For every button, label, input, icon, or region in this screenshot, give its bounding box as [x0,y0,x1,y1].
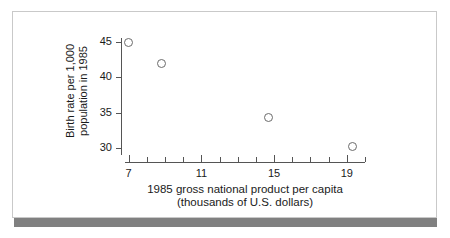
data-point [264,113,273,122]
x-axis-tick-minor [292,157,293,162]
data-point [124,38,133,47]
x-axis-title-line-2: (thousands of U.S. dollars) [121,196,369,209]
y-axis-tick-label: 35 [92,107,112,118]
x-axis-tick-major [347,155,348,162]
figure-frame: Birth rate per 1,000 population in 1985 … [12,11,437,218]
y-axis-title: Birth rate per 1,000 population in 1985 [57,29,97,153]
y-axis-title-text: Birth rate per 1,000 population in 1985 [64,44,90,138]
y-axis-title-line-2: population in 1985 [77,44,90,138]
x-axis-tick-minor [329,157,330,162]
data-point [348,142,357,151]
y-axis-tick-label: 40 [92,71,112,82]
bottom-accent-bar [14,218,437,227]
y-axis-title-line-1: Birth rate per 1,000 [64,44,77,138]
x-axis-tick-major [201,155,202,162]
x-axis-tick-label: 15 [262,167,286,179]
y-axis-tick [116,148,121,149]
y-axis-line [121,38,122,155]
x-axis-line [125,162,365,163]
x-axis-tick-minor [165,157,166,162]
x-axis-tick-major [274,155,275,162]
x-axis-tick-minor [238,157,239,162]
y-axis-tick-label: 45 [92,36,112,47]
y-axis-tick [116,77,121,78]
x-axis-tick-minor [220,157,221,162]
x-axis-tick-minor [147,157,148,162]
x-axis-tick-minor [365,157,366,162]
x-axis-tick-label: 19 [335,167,359,179]
data-point [157,59,166,68]
x-axis-tick-label: 7 [117,167,141,179]
x-axis-tick-major [129,155,130,162]
y-axis-tick-label: 30 [92,142,112,153]
x-axis-tick-label: 11 [189,167,213,179]
y-axis-tick [116,113,121,114]
x-axis-title-line-1: 1985 gross national product per capita [121,183,369,196]
y-axis-tick [116,42,121,43]
x-axis-tick-minor [310,157,311,162]
x-axis-title: 1985 gross national product per capita (… [121,183,369,209]
plot-area: 30354045 7111519 [121,31,369,163]
x-axis-tick-minor [256,157,257,162]
figure-root: Birth rate per 1,000 population in 1985 … [0,0,450,238]
x-axis-tick-minor [183,157,184,162]
